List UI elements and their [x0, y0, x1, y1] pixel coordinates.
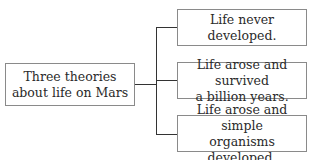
branch-1-line-2: developed. [208, 28, 277, 44]
branch-3-line-2: organisms developed. [178, 134, 306, 161]
branch-node-3: Life arose and simple organisms develope… [177, 115, 307, 152]
connector-branch-2 [156, 80, 177, 81]
root-line-2: about life on Mars [12, 85, 128, 101]
branch-2-line-1: Life arose and survived [178, 57, 306, 89]
branch-node-1: Life never developed. [177, 9, 307, 46]
branch-node-2: Life arose and survived a billion years. [177, 62, 307, 99]
connector-branch-3 [156, 134, 177, 135]
connector-trunk [156, 27, 157, 135]
root-line-1: Three theories [12, 69, 128, 85]
connector-root [135, 84, 157, 85]
branch-3-line-1: Life arose and simple [178, 102, 306, 134]
branch-1-line-1: Life never [208, 12, 277, 28]
root-node: Three theories about life on Mars [5, 63, 135, 106]
connector-branch-1 [156, 27, 177, 28]
